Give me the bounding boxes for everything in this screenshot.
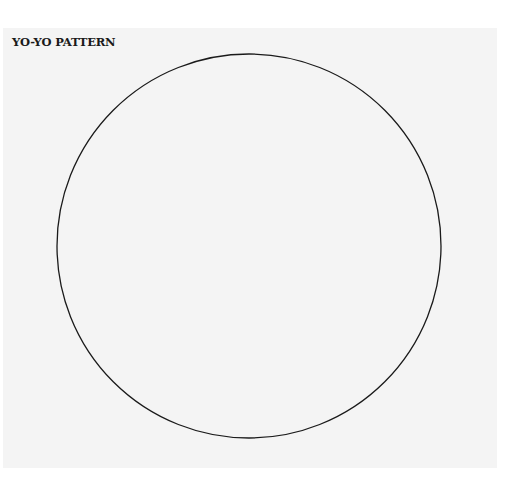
circle-outline [57,54,441,438]
yo-yo-circle-pattern [0,0,519,489]
